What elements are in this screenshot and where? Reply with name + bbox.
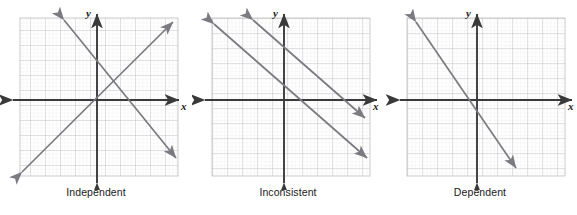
panel-dependent: x y Dependent xyxy=(384,0,577,215)
plot-independent: x y xyxy=(0,0,192,190)
y-axis-label: y xyxy=(464,7,471,19)
grid-inconsistent xyxy=(212,18,370,176)
caption-dependent: Dependent xyxy=(384,186,576,199)
panel-independent: x y Independent xyxy=(0,0,192,215)
caption-independent: Independent xyxy=(0,186,192,199)
caption-inconsistent: Inconsistent xyxy=(192,186,384,199)
panel-inconsistent: x y Inconsistent xyxy=(192,0,384,215)
plot-inconsistent: x y xyxy=(192,0,384,190)
y-axis-label: y xyxy=(271,7,278,19)
systems-of-equations-figure: x y Independent xyxy=(0,0,577,215)
x-axis-label: x xyxy=(180,100,187,112)
y-axis-label: y xyxy=(84,7,91,19)
x-axis-label: x xyxy=(567,100,574,112)
plot-dependent: x y xyxy=(384,0,577,190)
x-axis-label: x xyxy=(372,100,379,112)
grid-dependent xyxy=(407,18,565,176)
